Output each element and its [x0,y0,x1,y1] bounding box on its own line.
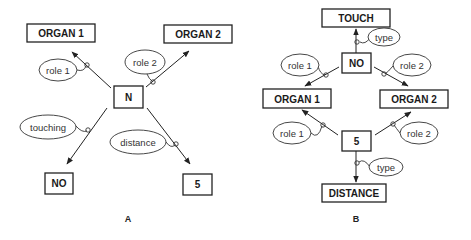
label-role2-top-b: role 2 [382,54,431,76]
node-organ1-a: ORGAN 1 [27,24,95,42]
node-distance-b: DISTANCE [322,184,386,202]
node-n: N [114,86,143,108]
label-role2-bottom-b-text: role 2 [407,128,431,139]
label-type-top-b: type [355,28,400,46]
node-organ2-b: ORGAN 2 [380,90,448,108]
label-role1-a-text: role 1 [46,65,70,76]
node-organ1-b: ORGAN 1 [263,89,331,108]
label-distance-a-text: distance [120,137,155,148]
node-n-label: N [125,92,132,103]
label-distance-a: distance [110,130,178,154]
node-organ1-a-label: ORGAN 1 [38,28,84,39]
node-touch-b-label: TOUCH [338,13,373,24]
node-five-b-label: 5 [354,136,360,147]
node-organ2-a: ORGAN 2 [164,25,232,43]
panel-label-a: A [125,214,132,224]
label-touching-a: touching [20,115,90,139]
label-role1-top-b-text: role 1 [288,60,312,71]
label-role1-top-b: role 1 [281,54,328,77]
node-no-a: NO [45,173,73,194]
label-touching-a-text: touching [30,122,66,133]
node-five-b: 5 [342,131,371,151]
diagram-b: TOUCH NO ORGAN 1 ORGAN 2 5 DISTANCE type [263,9,448,224]
node-no-b: NO [342,53,371,73]
node-no-a-label: NO [52,178,67,189]
node-distance-b-label: DISTANCE [329,188,380,199]
node-touch-b: TOUCH [322,9,390,27]
label-role1-bottom-b: role 1 [273,122,325,144]
node-five-a: 5 [183,174,212,195]
label-role1-bottom-b-text: role 1 [280,128,304,139]
node-five-a-label: 5 [195,179,201,190]
node-organ2-b-label: ORGAN 2 [391,94,437,105]
node-organ2-a-label: ORGAN 2 [175,29,221,40]
label-type-top-b-text: type [375,32,393,43]
label-role2-a-text: role 2 [133,57,157,68]
label-type-bottom-b: type [355,158,403,176]
node-no-b-label: NO [349,58,364,69]
label-role2-top-b-text: role 2 [400,60,424,71]
diagram-a: ORGAN 1 ORGAN 2 N NO 5 role 1 [20,24,232,224]
label-type-bottom-b-text: type [377,162,395,173]
label-role1-a: role 1 [39,59,89,81]
panel-label-b: B [353,214,360,224]
label-role2-a: role 2 [125,50,165,84]
node-organ1-b-label: ORGAN 1 [274,94,320,105]
edge-n-no [67,108,107,164]
diagram-canvas: ORGAN 1 ORGAN 2 N NO 5 role 1 [0,0,471,240]
label-role2-bottom-b: role 2 [391,122,438,144]
